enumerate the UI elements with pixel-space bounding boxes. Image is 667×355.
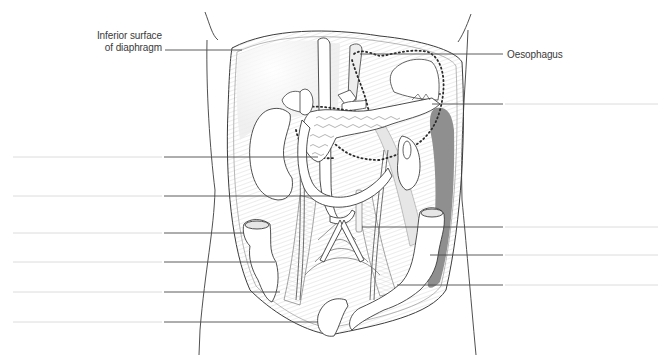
blank-label-slots: [13, 104, 658, 322]
label-diaphragm: Inferior surface of diaphragm: [92, 30, 162, 54]
anatomy-diagram: Inferior surface of diaphragm Oesophagus: [0, 0, 667, 355]
label-oesophagus-text: Oesophagus: [507, 49, 563, 60]
label-diaphragm-line2: of diaphragm: [92, 42, 162, 54]
label-oesophagus: Oesophagus: [507, 49, 563, 61]
label-diaphragm-line1: Inferior surface: [92, 30, 162, 42]
